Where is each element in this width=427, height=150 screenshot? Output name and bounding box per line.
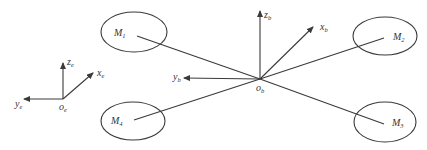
motor-m2-rotor	[353, 17, 417, 55]
body-z-label: zb	[263, 9, 272, 21]
motor-m3-rotor	[354, 102, 416, 142]
body-y-label: yb	[172, 71, 181, 83]
motor-m3: M3	[354, 102, 416, 142]
body-origin-label: ob	[256, 82, 265, 94]
arm-m2	[260, 38, 384, 79]
motor-m1-label: M1	[113, 27, 126, 39]
earth-y-label: ye	[14, 98, 22, 110]
motor-m3-label: M3	[391, 117, 404, 129]
motor-m4: M4	[101, 102, 165, 140]
arm-m3	[260, 79, 384, 124]
body-frame: zb xb yb ob	[172, 9, 328, 94]
motor-m4-label: M4	[110, 115, 123, 127]
arm-m1	[137, 36, 260, 79]
motor-m2: M2	[353, 17, 417, 55]
quadrotor-diagram: ze xe ye oe M1 M2 M3 M4 zb xb yb ob	[0, 0, 427, 150]
motor-m2-label: M2	[392, 31, 405, 43]
earth-x-label: xe	[96, 67, 104, 79]
body-x-label: xb	[319, 21, 328, 33]
motor-m1-rotor	[101, 12, 167, 52]
earth-x-axis	[63, 73, 93, 99]
earth-origin-label: oe	[59, 101, 67, 113]
earth-frame: ze xe ye oe	[14, 56, 104, 113]
arm-m4	[134, 79, 260, 120]
arms	[134, 36, 384, 124]
body-y-axis	[184, 78, 260, 79]
body-x-axis	[260, 27, 313, 79]
earth-z-label: ze	[66, 56, 74, 68]
motor-m1: M1	[101, 12, 167, 52]
